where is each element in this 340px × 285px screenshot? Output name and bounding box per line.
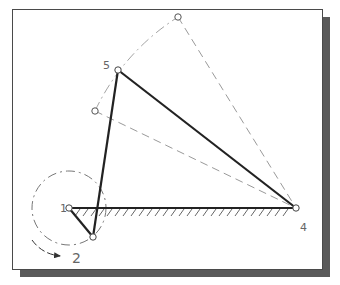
rocker-extreme-top-point bbox=[175, 14, 181, 20]
joint-2-pin bbox=[90, 234, 96, 240]
rocker-extreme-lower-line bbox=[95, 111, 296, 208]
joint-4-pin bbox=[293, 205, 299, 211]
rocker-extreme-low-point bbox=[92, 108, 98, 114]
ground-hatch bbox=[75, 209, 288, 216]
joint-5-label: 5 bbox=[103, 59, 110, 72]
diagram-stage: 1 4 5 2 bbox=[0, 0, 340, 285]
joint-5-pin bbox=[115, 67, 121, 73]
rocker-link bbox=[118, 70, 296, 208]
joint-1-label: 1 bbox=[60, 202, 67, 215]
rotation-label: 2 bbox=[72, 250, 81, 266]
joint-4-label: 4 bbox=[300, 221, 307, 234]
crank-link bbox=[69, 208, 93, 237]
linkage-drawing: 1 4 5 2 bbox=[0, 0, 340, 285]
